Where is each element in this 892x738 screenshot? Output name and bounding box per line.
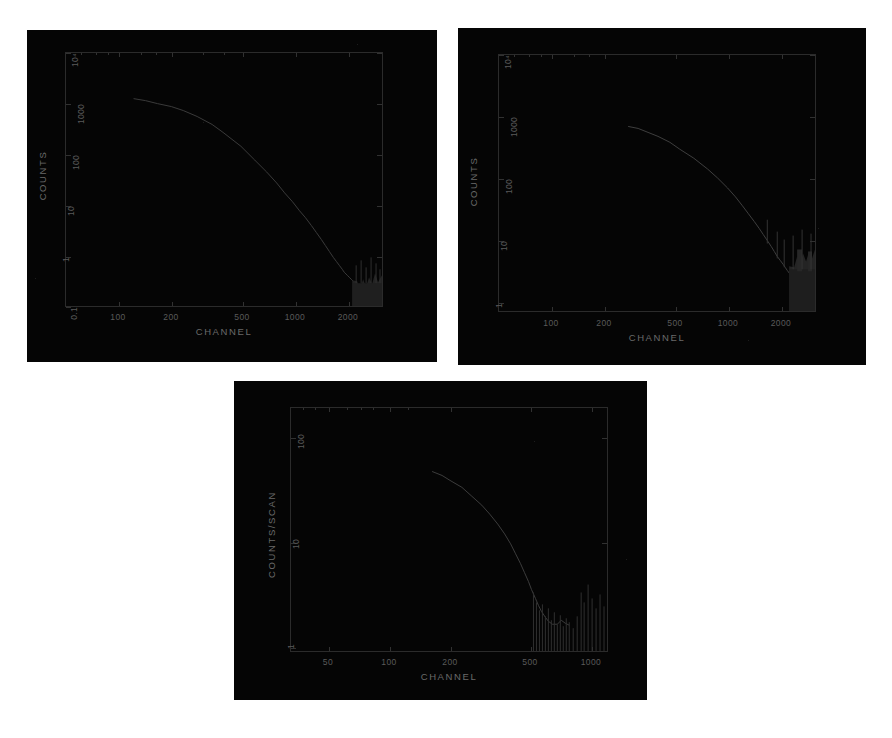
ytick-right: [377, 53, 382, 54]
ytick-right: [810, 241, 815, 242]
xtick-label: 100: [110, 312, 125, 322]
xtick-top: [552, 55, 553, 59]
ytick-label: 10⁴: [70, 53, 80, 67]
ytick-right: [377, 257, 382, 258]
xtick-label: 50: [323, 657, 333, 667]
xtick-top-minor: [96, 53, 97, 55]
ytick-label: 0.1: [69, 307, 79, 320]
xtick-top: [390, 408, 391, 412]
xtick-label: 2000: [338, 312, 359, 322]
xtick-major: [172, 302, 173, 306]
ytick-label: 1: [61, 257, 71, 262]
xtick-major: [592, 647, 593, 651]
xtick-top: [243, 53, 244, 57]
xtick-major: [729, 307, 730, 311]
ytick-label: 1: [286, 644, 296, 649]
xtick-top: [329, 408, 330, 412]
xtick-top-minor: [514, 55, 515, 57]
xtick-label: 200: [596, 318, 611, 328]
xtick-label: 100: [543, 318, 558, 328]
xtick-major: [296, 302, 297, 306]
xtick-top-minor: [108, 53, 109, 55]
xtick-top-minor: [81, 53, 82, 55]
xtick-top: [729, 55, 730, 59]
ytick-right: [810, 179, 815, 180]
ytick-label: 10⁴: [503, 55, 513, 69]
plot-area-3: [290, 407, 608, 652]
ytick-right: [602, 543, 607, 544]
ytick-label: 1000: [76, 104, 86, 124]
xtick-top-minor: [529, 55, 530, 57]
plot-area-1: [65, 52, 383, 307]
xtick-label: 500: [522, 657, 537, 667]
xtick-top: [451, 408, 452, 412]
ytick-major: [499, 117, 504, 118]
y-axis-title: COUNTS: [468, 157, 479, 207]
ytick-right: [810, 55, 815, 56]
ytick-right: [377, 206, 382, 207]
spectrum-trace-1: [66, 53, 382, 306]
ytick-label: 100: [296, 434, 306, 449]
xtick-major: [243, 302, 244, 306]
xtick-top-minor: [347, 408, 348, 410]
xtick-top-minor: [203, 53, 204, 55]
spectrum-trace-2: [499, 55, 815, 311]
xtick-top: [605, 55, 606, 59]
panel-top-left: 100 200 500 1000 2000 CHANNEL 10⁴ 1000 1…: [27, 30, 437, 362]
y-axis-title: COUNTS/SCAN: [266, 491, 277, 578]
xtick-top: [676, 55, 677, 59]
xtick-top: [296, 53, 297, 57]
ytick-right: [810, 117, 815, 118]
xtick-major: [329, 647, 330, 651]
ytick-label: 100: [504, 179, 514, 194]
xtick-top-minor: [574, 55, 575, 57]
xtick-major: [390, 647, 391, 651]
xtick-top: [592, 408, 593, 412]
xtick-top: [172, 53, 173, 57]
xtick-label: 500: [234, 312, 249, 322]
xtick-top-minor: [141, 53, 142, 55]
xtick-top-minor: [303, 408, 304, 410]
x-axis-title: CHANNEL: [629, 332, 686, 343]
xtick-major: [119, 302, 120, 306]
xtick-top-minor: [373, 408, 374, 410]
ytick-label: 10: [291, 539, 301, 549]
xtick-major: [531, 647, 532, 651]
xtick-label: 1000: [285, 312, 306, 322]
xtick-major: [349, 302, 350, 306]
ytick-label: 10: [499, 241, 509, 251]
xtick-label: 1000: [581, 657, 602, 667]
xtick-top: [531, 408, 532, 412]
xtick-top-minor: [156, 53, 157, 55]
xtick-major: [782, 307, 783, 311]
xtick-label: 1000: [718, 318, 739, 328]
xtick-label: 2000: [771, 318, 792, 328]
xtick-major: [451, 647, 452, 651]
ytick-label: 1000: [509, 117, 519, 137]
spectrum-trace-3: [291, 408, 607, 651]
ytick-right: [377, 155, 382, 156]
panel-bottom: 50 100 200 500 1000 CHANNEL 100 10 1 COU…: [234, 381, 647, 700]
ytick-right: [602, 438, 607, 439]
xtick-label: 200: [442, 657, 457, 667]
xtick-major: [552, 307, 553, 311]
xtick-top-minor: [589, 55, 590, 57]
xtick-top-minor: [315, 408, 316, 410]
xtick-top-minor: [361, 408, 362, 410]
xtick-major: [676, 307, 677, 311]
ytick-right: [377, 104, 382, 105]
ytick-label: 100: [71, 155, 81, 170]
x-axis-title: CHANNEL: [196, 326, 253, 337]
xtick-top-minor: [541, 55, 542, 57]
xtick-label: 500: [667, 318, 682, 328]
xtick-top: [119, 53, 120, 57]
xtick-top-minor: [224, 53, 225, 55]
xtick-top-minor: [408, 408, 409, 410]
xtick-top: [349, 53, 350, 57]
xtick-major: [605, 307, 606, 311]
ytick-label: 10: [66, 206, 76, 216]
xtick-label: 100: [381, 657, 396, 667]
plot-area-2: [498, 54, 816, 312]
x-axis-title: CHANNEL: [421, 671, 478, 682]
xtick-top: [782, 55, 783, 59]
